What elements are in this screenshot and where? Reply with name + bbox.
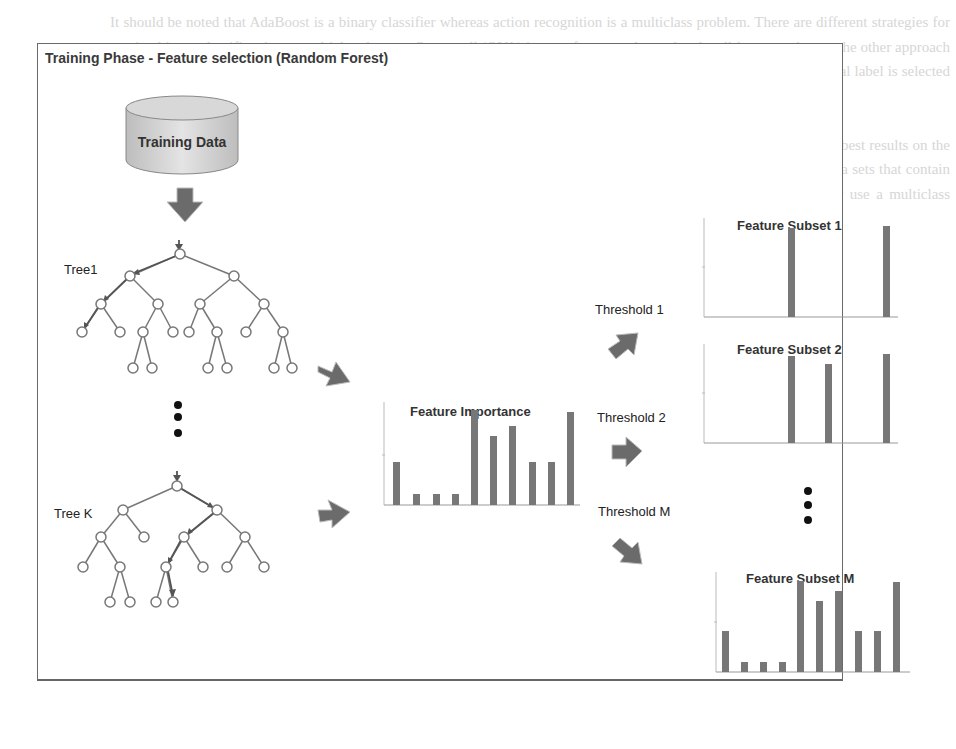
down-arrow-icon (165, 188, 205, 224)
decision-tree-k (70, 470, 290, 630)
diagram-title: Training Phase - Feature selection (Rand… (45, 50, 388, 66)
threshold-m-label: Threshold M (598, 504, 670, 519)
threshold-2-label: Threshold 2 (597, 410, 666, 425)
arrow-right-icon (610, 437, 644, 471)
feature-subset-2-chart (702, 342, 902, 446)
arrow-down-right-icon (610, 536, 644, 566)
arrow-treek-to-importance-icon (316, 498, 352, 532)
training-data-label: Training Data (124, 134, 240, 150)
feature-importance-chart (382, 400, 582, 512)
feature-subset-1-chart (702, 216, 902, 320)
arrow-up-right-icon (606, 331, 640, 361)
decision-tree-1 (60, 236, 320, 376)
threshold-1-label: Threshold 1 (595, 302, 664, 317)
training-data-cylinder: Training Data (124, 94, 240, 176)
feature-subset-m-chart (714, 570, 914, 674)
arrow-tree1-to-importance-icon (316, 358, 352, 388)
